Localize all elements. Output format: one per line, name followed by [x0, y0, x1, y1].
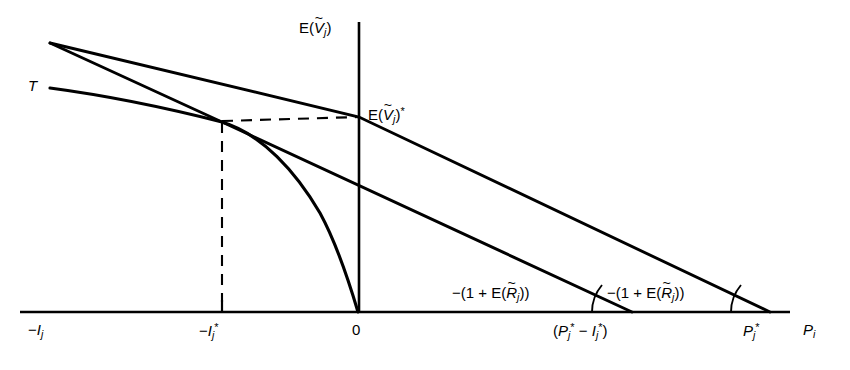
x-label-neg-i-star: −Ij*: [199, 322, 219, 341]
transformation-curve-t: [50, 88, 358, 312]
upper-isovalue-line: [50, 43, 770, 312]
x-label-pj-star: Pj*: [743, 322, 760, 341]
lower-isovalue-line: [50, 43, 632, 312]
x-axis-label: Pi: [803, 322, 815, 340]
x-label-neg-i: −Ij: [28, 322, 43, 340]
figure-plot-area: [0, 0, 850, 370]
curve-t-label: T: [28, 78, 37, 93]
dashed-horizontal-guide: [222, 117, 359, 121]
x-label-origin: 0: [352, 322, 360, 337]
figure-container: T E(V~j) E(V~j)* −Ij −Ij* 0 −(1 + E(R~j)…: [0, 0, 850, 370]
slope-label-right: −(1 + E(R~j)): [607, 285, 684, 303]
slope-label-left: −(1 + E(R~j)): [452, 285, 529, 303]
y-axis-optimum-label: E(V~j)*: [368, 106, 405, 125]
y-axis-label: E(V~j): [299, 20, 331, 38]
x-label-p-minus-i: (Pj* − Ij*): [553, 322, 608, 341]
